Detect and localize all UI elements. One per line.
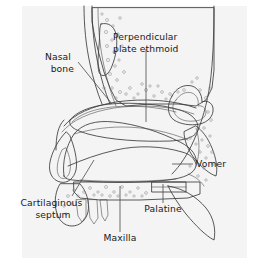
label-maxilla: Maxilla bbox=[104, 232, 137, 243]
label-perpendicular-plate-ethmoid: Perpendicular plate ethmoid bbox=[113, 31, 181, 54]
anatomy-figure: Perpendicular plate ethmoid Nasal bone V… bbox=[0, 0, 270, 269]
label-vomer: Vomer bbox=[196, 158, 226, 169]
nasal-septum-diagram: Perpendicular plate ethmoid Nasal bone V… bbox=[0, 0, 270, 269]
label-palatine: Palatine bbox=[144, 203, 182, 214]
